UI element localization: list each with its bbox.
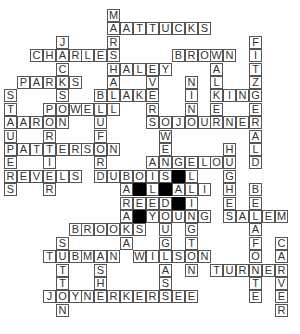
letter-cell[interactable]: Z: [249, 76, 262, 89]
letter-cell[interactable]: R: [120, 197, 133, 210]
letter-cell[interactable]: W: [133, 250, 146, 263]
letter-cell[interactable]: A: [107, 22, 120, 35]
letter-cell[interactable]: S: [4, 183, 17, 196]
letter-cell[interactable]: S: [81, 143, 94, 156]
letter-cell[interactable]: L: [133, 63, 146, 76]
letter-cell[interactable]: O: [56, 290, 69, 303]
letter-cell[interactable]: I: [223, 89, 236, 102]
letter-cell[interactable]: N: [223, 116, 236, 129]
letter-cell[interactable]: W: [210, 49, 223, 62]
letter-cell[interactable]: E: [210, 103, 223, 116]
letter-cell[interactable]: G: [198, 210, 211, 223]
letter-cell[interactable]: O: [159, 210, 172, 223]
letter-cell[interactable]: N: [223, 49, 236, 62]
letter-cell[interactable]: M: [275, 210, 288, 223]
letter-cell[interactable]: U: [56, 250, 69, 263]
letter-cell[interactable]: V: [30, 170, 43, 183]
letter-cell[interactable]: E: [249, 290, 262, 303]
letter-cell[interactable]: A: [236, 210, 249, 223]
letter-cell[interactable]: E: [133, 290, 146, 303]
letter-cell[interactable]: E: [249, 197, 262, 210]
letter-cell[interactable]: S: [69, 76, 82, 89]
letter-cell[interactable]: S: [198, 22, 211, 35]
letter-cell[interactable]: E: [81, 103, 94, 116]
letter-cell[interactable]: S: [133, 223, 146, 236]
letter-cell[interactable]: L: [81, 49, 94, 62]
letter-cell[interactable]: F: [249, 36, 262, 49]
letter-cell[interactable]: E: [185, 156, 198, 169]
letter-cell[interactable]: B: [120, 170, 133, 183]
letter-cell[interactable]: G: [172, 156, 185, 169]
letter-cell[interactable]: L: [249, 143, 262, 156]
letter-cell[interactable]: U: [223, 264, 236, 277]
letter-cell[interactable]: T: [56, 277, 69, 290]
letter-cell[interactable]: H: [107, 63, 120, 76]
letter-cell[interactable]: N: [236, 89, 249, 102]
letter-cell[interactable]: L: [146, 183, 159, 196]
letter-cell[interactable]: A: [94, 250, 107, 263]
letter-cell[interactable]: B: [249, 183, 262, 196]
letter-cell[interactable]: O: [43, 116, 56, 129]
letter-cell[interactable]: S: [223, 210, 236, 223]
letter-cell[interactable]: A: [17, 116, 30, 129]
letter-cell[interactable]: V: [275, 277, 288, 290]
letter-cell[interactable]: U: [4, 130, 17, 143]
letter-cell[interactable]: L: [107, 103, 120, 116]
letter-cell[interactable]: E: [56, 143, 69, 156]
letter-cell[interactable]: W: [159, 130, 172, 143]
letter-cell[interactable]: T: [43, 250, 56, 263]
letter-cell[interactable]: A: [249, 223, 262, 236]
letter-cell[interactable]: A: [146, 156, 159, 169]
letter-cell[interactable]: Y: [159, 63, 172, 76]
letter-cell[interactable]: B: [172, 49, 185, 62]
letter-cell[interactable]: D: [249, 156, 262, 169]
letter-cell[interactable]: R: [81, 223, 94, 236]
letter-cell[interactable]: A: [56, 49, 69, 62]
letter-cell[interactable]: L: [159, 250, 172, 263]
letter-cell[interactable]: L: [249, 210, 262, 223]
letter-cell[interactable]: N: [185, 264, 198, 277]
letter-cell[interactable]: H: [223, 183, 236, 196]
letter-cell[interactable]: N: [81, 290, 94, 303]
letter-cell[interactable]: K: [210, 89, 223, 102]
letter-cell[interactable]: N: [159, 156, 172, 169]
letter-cell[interactable]: O: [185, 116, 198, 129]
letter-cell[interactable]: L: [185, 170, 198, 183]
letter-cell[interactable]: C: [56, 63, 69, 76]
letter-cell[interactable]: J: [172, 116, 185, 129]
letter-cell[interactable]: A: [17, 143, 30, 156]
letter-cell[interactable]: R: [107, 290, 120, 303]
letter-cell[interactable]: J: [43, 290, 56, 303]
letter-cell[interactable]: E: [146, 89, 159, 102]
letter-cell[interactable]: E: [275, 290, 288, 303]
letter-cell[interactable]: A: [172, 183, 185, 196]
letter-cell[interactable]: T: [56, 264, 69, 277]
letter-cell[interactable]: S: [172, 250, 185, 263]
letter-cell[interactable]: I: [185, 89, 198, 102]
letter-cell[interactable]: R: [43, 183, 56, 196]
letter-cell[interactable]: S: [69, 170, 82, 183]
letter-cell[interactable]: U: [107, 170, 120, 183]
letter-cell[interactable]: G: [159, 237, 172, 250]
letter-cell[interactable]: R: [236, 264, 249, 277]
letter-cell[interactable]: T: [30, 143, 43, 156]
letter-cell[interactable]: R: [4, 170, 17, 183]
letter-cell[interactable]: U: [94, 116, 107, 129]
letter-cell[interactable]: S: [56, 237, 69, 250]
letter-cell[interactable]: T: [249, 277, 262, 290]
letter-cell[interactable]: H: [43, 49, 56, 62]
letter-cell[interactable]: E: [262, 210, 275, 223]
letter-cell[interactable]: D: [159, 197, 172, 210]
letter-cell[interactable]: R: [43, 130, 56, 143]
letter-cell[interactable]: O: [56, 103, 69, 116]
letter-cell[interactable]: G: [223, 170, 236, 183]
letter-cell[interactable]: I: [185, 197, 198, 210]
letter-cell[interactable]: E: [262, 264, 275, 277]
letter-cell[interactable]: K: [185, 22, 198, 35]
letter-cell[interactable]: O: [249, 250, 262, 263]
letter-cell[interactable]: T: [185, 237, 198, 250]
letter-cell[interactable]: S: [159, 170, 172, 183]
letter-cell[interactable]: B: [94, 89, 107, 102]
letter-cell[interactable]: M: [81, 250, 94, 263]
letter-cell[interactable]: O: [185, 250, 198, 263]
